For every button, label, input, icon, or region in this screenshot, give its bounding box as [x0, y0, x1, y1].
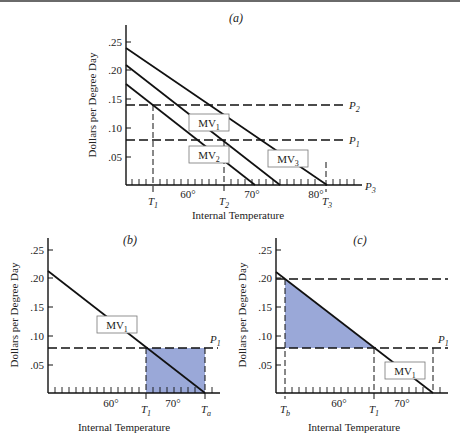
a-p1-label: P1 — [348, 134, 360, 149]
a-t2: T2 — [219, 195, 229, 210]
b-p1-label: P1 — [209, 333, 221, 348]
panel-b-title: (b) — [123, 233, 137, 247]
c-ytick-020: .20 — [258, 272, 272, 284]
a-mv2-label: MV2 — [189, 146, 229, 164]
a-t1: T1 — [148, 195, 158, 210]
c-60: 60° — [331, 397, 346, 409]
b-ytick-025: .25 — [30, 244, 44, 256]
a-ytick-005: .05 — [108, 151, 122, 163]
a-ylabel: Dollars per Degree Day — [86, 52, 98, 157]
b-ylabel: Dollars per Degree Day — [8, 262, 20, 367]
c-ylabel: Dollars per Degree Day — [236, 262, 248, 367]
c-ytick-010: .10 — [258, 330, 272, 342]
a-p2-label: P2 — [348, 99, 360, 114]
c-mv1-label: MV1 — [385, 362, 425, 380]
panel-c: (c) .25 .20 .15 .10 .05 Dollars per Degr… — [236, 233, 449, 433]
panel-c-title: (c) — [353, 233, 366, 247]
b-t1: T1 — [141, 403, 151, 418]
a-ytick-025: .25 — [108, 36, 122, 48]
c-xlabel: Internal Temperature — [308, 421, 400, 433]
c-ytick-025: .25 — [258, 244, 272, 256]
c-70: 70° — [394, 397, 409, 409]
a-xlabel: Internal Temperature — [192, 209, 284, 221]
b-ytick-015: .15 — [30, 301, 44, 313]
b-ta: Ta — [201, 403, 211, 418]
figure-canvas: (a) .25 .20 .15 .10 .05 Dollars per Degr… — [0, 0, 460, 441]
c-tb: Tb — [280, 403, 290, 418]
panel-a-title: (a) — [229, 11, 243, 25]
b-mv1-label: MV1 — [97, 316, 137, 334]
c-ytick-005: .05 — [258, 359, 272, 371]
a-60: 60° — [180, 188, 195, 200]
b-xlabel: Internal Temperature — [78, 421, 170, 433]
panel-b: (b) .25 .20 .15 .10 .05 Dollars per Degr… — [8, 233, 221, 433]
a-ytick-020: .20 — [108, 64, 122, 76]
b-70: 70° — [165, 397, 180, 409]
c-ytick-015: .15 — [258, 301, 272, 313]
a-ytick-015: .15 — [108, 93, 122, 105]
panel-a: (a) .25 .20 .15 .10 .05 Dollars per Degr… — [86, 11, 376, 221]
c-p1-label: P1 — [437, 333, 449, 348]
a-t3: T3 — [322, 195, 332, 210]
b-ytick-020: .20 — [30, 272, 44, 284]
a-mv1-label: MV1 — [189, 114, 229, 132]
a-mv3-label: MV3 — [268, 150, 308, 168]
a-ytick-010: .10 — [108, 122, 122, 134]
a-70: 70° — [244, 188, 259, 200]
b-ytick-005: .05 — [30, 359, 44, 371]
b-60: 60° — [103, 397, 118, 409]
c-t1: T1 — [369, 403, 379, 418]
b-ytick-010: .10 — [30, 330, 44, 342]
a-p3-label: P3 — [364, 180, 376, 195]
